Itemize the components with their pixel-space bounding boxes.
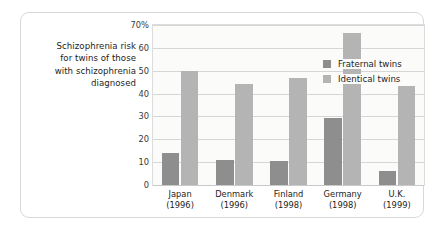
x-tick-country: Japan: [166, 189, 194, 200]
x-tick-country: Germany: [324, 189, 362, 200]
bar-uk-fraternal: [379, 171, 397, 185]
bar-denmark-identical: [235, 84, 253, 185]
x-tick-year: (1998): [324, 200, 362, 211]
y-tick-label-0: 0: [120, 180, 149, 190]
x-tick-year: (1996): [215, 200, 253, 211]
y-axis: 010203040506070%: [120, 24, 149, 186]
legend-item-fraternal: Fraternal twins: [323, 57, 404, 70]
bar-germany-identical: [343, 33, 361, 185]
plot-area: Fraternal twins Identical twins: [152, 24, 425, 186]
bar-uk-identical: [398, 86, 416, 185]
legend-label-fraternal: Fraternal twins: [336, 59, 404, 69]
y-tick-label-50: 50: [120, 66, 149, 76]
x-tick-country: Finland: [274, 189, 304, 200]
legend: Fraternal twins Identical twins: [323, 57, 404, 87]
bar-finland-fraternal: [270, 161, 288, 185]
x-tick-label-finland: Finland(1998): [274, 189, 304, 210]
legend-label-identical: Identical twins: [336, 74, 402, 84]
y-tick-label-60: 60: [120, 43, 149, 53]
x-tick-label-japan: Japan(1996): [166, 189, 194, 210]
x-tick-label-denmark: Denmark(1996): [215, 189, 253, 210]
x-tick-label-uk: U.K.(1999): [383, 189, 411, 210]
gridline-0: [153, 185, 424, 186]
x-axis: Japan(1996)Denmark(1996)Finland(1998)Ger…: [152, 189, 425, 217]
bar-germany-fraternal: [324, 118, 342, 185]
legend-swatch-icon-identical: [323, 75, 331, 83]
x-tick-year: (1996): [166, 200, 194, 211]
bar-japan-identical: [181, 71, 199, 185]
bar-group: [153, 25, 424, 185]
x-tick-year: (1999): [383, 200, 411, 211]
y-tick-label-10: 10: [120, 157, 149, 167]
y-tick-label-20: 20: [120, 134, 149, 144]
x-tick-year: (1998): [274, 200, 304, 211]
x-tick-country: Denmark: [215, 189, 253, 200]
legend-item-identical: Identical twins: [323, 72, 404, 85]
bar-denmark-fraternal: [216, 160, 234, 185]
legend-swatch-icon-fraternal: [323, 60, 331, 68]
y-tick-label-30: 30: [120, 111, 149, 121]
bar-japan-fraternal: [162, 153, 180, 185]
figure: Schizophrenia risk for twins of those wi…: [0, 0, 439, 233]
bar-finland-identical: [289, 78, 307, 185]
y-tick-label-40: 40: [120, 89, 149, 99]
x-tick-country: U.K.: [383, 189, 411, 200]
y-tick-label-70: 70%: [120, 20, 149, 30]
x-tick-label-germany: Germany(1998): [324, 189, 362, 210]
